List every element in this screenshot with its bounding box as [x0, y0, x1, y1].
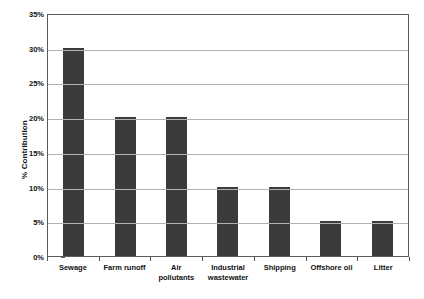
- y-axis-tick-labels: 0%5%10%15%20%25%30%35%: [18, 14, 44, 257]
- x-axis-tick-label: Farm runoff: [99, 262, 151, 296]
- bar-slot: [254, 15, 305, 256]
- bar[interactable]: [372, 221, 393, 256]
- y-axis-tick-label: 15%: [18, 148, 44, 157]
- bar-slot: [305, 15, 356, 256]
- x-axis-tick-mark: [202, 257, 203, 261]
- x-axis-tick-mark: [47, 257, 48, 261]
- gridline: [48, 154, 408, 155]
- x-axis-tick-mark: [254, 257, 255, 261]
- gridline: [48, 223, 408, 224]
- bar-slot: [151, 15, 202, 256]
- bar[interactable]: [269, 187, 290, 256]
- bar-chart: % Contribution 0%5%10%15%20%25%30%35% Se…: [0, 0, 424, 299]
- bar-slot: [99, 15, 150, 256]
- x-axis-tick-label: Litter: [357, 262, 409, 296]
- x-axis-tick-label: Offshore oil: [306, 262, 358, 296]
- x-axis-tick-label: Shipping: [254, 262, 306, 296]
- bar-slot: [202, 15, 253, 256]
- bars-layer: [48, 15, 408, 256]
- gridline: [48, 50, 408, 51]
- plot-area: [47, 14, 409, 257]
- x-axis-tick-label: Air pollutants: [150, 262, 202, 296]
- x-axis-tick-mark: [99, 257, 100, 261]
- bar-slot: [357, 15, 408, 256]
- x-axis-tick-mark: [357, 257, 358, 261]
- bar[interactable]: [63, 48, 84, 256]
- bar[interactable]: [320, 221, 341, 256]
- bar-slot: [48, 15, 99, 256]
- y-axis-tick-label: 30%: [18, 44, 44, 53]
- y-axis-tick-label: 35%: [18, 10, 44, 19]
- bar[interactable]: [217, 187, 238, 256]
- y-axis-tick-label: 10%: [18, 183, 44, 192]
- x-axis-tick-mark: [306, 257, 307, 261]
- bar[interactable]: [115, 117, 136, 256]
- bar[interactable]: [166, 117, 187, 256]
- y-axis-tick-label: 0%: [18, 253, 44, 262]
- y-axis-tick-label: 25%: [18, 79, 44, 88]
- y-axis-tick-label: 20%: [18, 114, 44, 123]
- y-axis-tick-label: 5%: [18, 218, 44, 227]
- x-axis-tick-mark: [150, 257, 151, 261]
- x-axis-tick-mark: [409, 257, 410, 261]
- x-axis-tick-labels: SewageFarm runoffAir pollutantsIndustria…: [47, 262, 409, 296]
- gridline: [48, 189, 408, 190]
- x-axis-tick-label: Industrial wastewater: [202, 262, 254, 296]
- gridline: [48, 84, 408, 85]
- x-axis-tick-label: Sewage: [47, 262, 99, 296]
- gridline: [48, 119, 408, 120]
